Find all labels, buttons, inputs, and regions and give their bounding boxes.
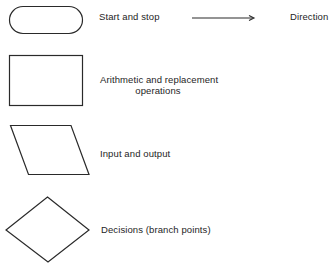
process-rectangle-symbol [10, 56, 83, 106]
input-output-label: Input and output [100, 148, 170, 159]
flowchart-symbols-legend: Start and stop Direction Arithmetic and … [0, 0, 331, 275]
direction-label: Direction [290, 11, 328, 22]
input-output-parallelogram-symbol [11, 126, 90, 175]
direction-arrow-icon [192, 16, 254, 21]
decision-diamond-symbol [6, 197, 89, 262]
decision-label: Decisions (branch points) [101, 224, 211, 235]
terminal-symbol [10, 7, 83, 34]
process-label-line1: Arithmetic and replacement [100, 74, 216, 85]
process-label: Arithmetic and replacement operations [100, 74, 216, 96]
terminal-label: Start and stop [99, 11, 160, 22]
process-label-line2: operations [100, 85, 216, 96]
